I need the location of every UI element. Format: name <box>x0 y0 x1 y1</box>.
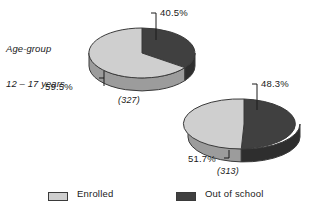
legend-swatch-out-of-school <box>176 192 196 201</box>
pies-vector-layer <box>0 0 315 212</box>
pie-chart-figure: Age-group 12 – 17 years <box>0 0 315 212</box>
legend-swatch-enrolled <box>48 192 68 201</box>
pie-lower-enrolled-pct: 51.7% <box>188 153 216 164</box>
pie-upper <box>89 13 195 91</box>
legend-label-enrolled: Enrolled <box>77 188 113 199</box>
pie-lower-outofschool-pct: 48.3% <box>261 78 289 89</box>
pie-upper-enrolled-pct: 59.5% <box>45 81 73 92</box>
pie-lower-count: (313) <box>217 166 239 176</box>
pie-upper-outofschool-pct: 40.5% <box>160 7 188 18</box>
legend-label-out-of-school: Out of school <box>205 188 264 199</box>
pie-lower <box>183 84 300 162</box>
pie-upper-count: (327) <box>118 95 140 105</box>
